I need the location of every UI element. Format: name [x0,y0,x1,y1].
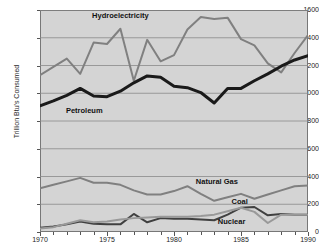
x-tickmark [107,232,108,236]
x-tickmark [53,232,54,235]
series-line-natural-gas [40,178,308,201]
chart-title [0,0,319,1]
x-tickmark [228,232,229,235]
series-label-nuclear: Nuclear [218,217,246,226]
chart-screenshot: Trillion Btu's Consumed 1600140012001000… [0,0,319,248]
y-tickmark [37,149,40,150]
series-label-hydroelectricity: Hydroelectricity [92,11,149,20]
x-tickmark [187,232,188,235]
x-tickmark [281,232,282,235]
y-tickmark [37,121,40,122]
plot-area: HydroelectricityPetroleumNatural GasCoal… [40,10,308,232]
y-tickmark [37,38,40,39]
x-tickmark [147,232,148,235]
y-tickmark [37,204,40,205]
x-tickmark [268,232,269,235]
x-tickmark [214,232,215,235]
x-tickmark [174,232,175,236]
x-tickmark [120,232,121,235]
x-tickmark [241,232,242,236]
series-label-petroleum: Petroleum [66,106,103,115]
series-label-coal: Coal [232,197,248,206]
y-tickmark [37,66,40,67]
y-tickmark [37,232,40,233]
x-tickmark [80,232,81,235]
x-tickmark [201,232,202,235]
x-tick-1975: 1975 [87,236,127,243]
x-tickmark [40,232,41,236]
series-line-hydroelectricity [40,17,308,81]
plot-lines [40,10,308,232]
y-tickmark [37,93,40,94]
series-label-natural-gas: Natural Gas [196,177,238,186]
x-tickmark [295,232,296,235]
x-tickmark [94,232,95,235]
x-tickmark [134,232,135,235]
y-tickmark [37,10,40,11]
x-tickmark [67,232,68,235]
x-tick-1985: 1985 [221,236,261,243]
y-tickmark [37,177,40,178]
y-axis-title: Trillion Btu's Consumed [13,42,20,162]
x-tickmark [161,232,162,235]
x-tickmark [254,232,255,235]
x-tickmark [308,232,309,236]
x-tick-1990: 1990 [288,236,319,243]
x-tick-1970: 1970 [20,236,60,243]
x-tick-1980: 1980 [154,236,194,243]
